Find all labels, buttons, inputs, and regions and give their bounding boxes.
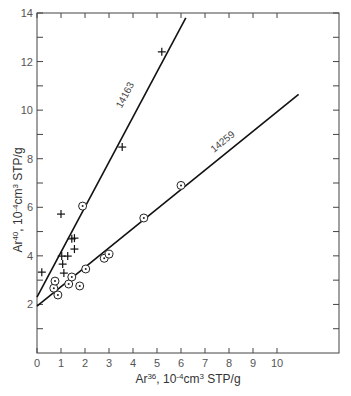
plus-marker: [64, 252, 72, 260]
x-tick-label: 9: [250, 357, 256, 369]
plus-marker: [60, 269, 68, 277]
x-axis-label: Ar36, 10-4cm3 STP/g: [135, 372, 240, 387]
scatter-chart: 0123456789102468101214 1416314259 Ar36, …: [0, 0, 351, 396]
circle-dot-marker: [140, 214, 148, 222]
plus-marker: [70, 245, 78, 253]
y-axis-label: Ar40, 10-4cm3 STP/g: [11, 147, 26, 252]
fit-line-14259: [37, 94, 299, 306]
x-tick-label: 10: [271, 357, 283, 369]
axis-labels: Ar36, 10-4cm3 STP/g Ar40, 10-4cm3 STP/g: [11, 147, 241, 386]
line-label-14163: 14163: [113, 80, 136, 110]
plus-marker: [59, 260, 67, 268]
circle-dot-marker: [177, 181, 185, 189]
x-tick-label: 3: [106, 357, 112, 369]
x-tick-label: 0: [34, 357, 40, 369]
y-tick-label: 14: [21, 7, 33, 19]
circle-dot-marker: [68, 273, 76, 281]
x-tick-label: 2: [82, 357, 88, 369]
circle-dot-marker: [105, 250, 113, 258]
plus-marker: [118, 143, 126, 151]
circle-dot-marker: [82, 265, 90, 273]
circle-dot-marker: [79, 202, 87, 210]
x-tick-label: 1: [58, 357, 64, 369]
y-tick-label: 6: [27, 201, 33, 213]
line-label-14259: 14259: [208, 128, 237, 154]
plus-marker: [57, 210, 65, 218]
y-tick-label: 10: [21, 104, 33, 116]
x-tick-label: 6: [178, 357, 184, 369]
x-tick-label: 8: [226, 357, 232, 369]
x-tick-label: 7: [202, 357, 208, 369]
y-tick-label: 4: [27, 250, 33, 262]
plus-marker: [158, 48, 166, 56]
circle-dot-marker: [76, 282, 84, 290]
plus-marker: [38, 268, 46, 276]
y-tick-label: 2: [27, 298, 33, 310]
x-tick-label: 5: [154, 357, 160, 369]
fit-lines: 1416314259: [37, 18, 299, 306]
data-points: [38, 48, 185, 299]
y-tick-label: 8: [27, 153, 33, 165]
circle-dot-marker: [51, 277, 59, 285]
circle-dot-marker: [54, 291, 62, 299]
x-tick-label: 4: [130, 357, 136, 369]
y-tick-label: 12: [21, 56, 33, 68]
